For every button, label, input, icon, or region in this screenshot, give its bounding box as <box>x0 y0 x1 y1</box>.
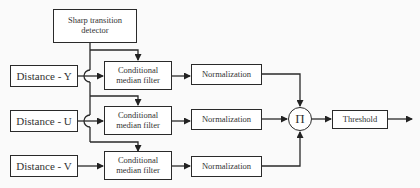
threshold-box: Threshold <box>332 110 388 129</box>
distance-u-box: Distance - U <box>10 110 78 132</box>
conditional-median-filter-v: Conditional median filter <box>104 151 172 180</box>
normalization-u: Normalization <box>191 109 262 130</box>
distance-v-box: Distance - V <box>10 155 78 177</box>
distance-y-box: Distance - Y <box>10 65 78 87</box>
normalization-v: Normalization <box>191 156 262 177</box>
sharp-transition-detector: Sharp transition detector <box>53 9 137 43</box>
conditional-median-filter-y: Conditional median filter <box>104 61 172 90</box>
normalization-y: Normalization <box>191 64 262 85</box>
product-node: Π <box>288 107 312 131</box>
block-diagram: Sharp transition detector Distance - Y D… <box>0 0 420 188</box>
conditional-median-filter-u: Conditional median filter <box>104 106 172 135</box>
